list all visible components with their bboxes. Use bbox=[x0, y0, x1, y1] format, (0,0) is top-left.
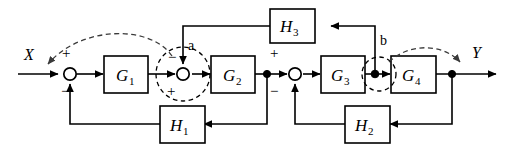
block-g4-subscript: 4 bbox=[415, 75, 421, 87]
block-g2-subscript: 2 bbox=[236, 75, 242, 87]
block-g2-label: G bbox=[223, 66, 235, 85]
takeoff-node-b-dot[interactable] bbox=[371, 70, 379, 78]
block-h3-label: H bbox=[279, 17, 294, 36]
block-g4-label: G bbox=[402, 66, 414, 85]
block-diagram-canvas: G 1 G 2 G 3 G 4 H 1 H 2 bbox=[0, 0, 508, 152]
block-g1-subscript: 1 bbox=[129, 75, 135, 87]
block-h1-label: H bbox=[169, 116, 184, 135]
block-h3[interactable]: H 3 bbox=[270, 9, 315, 43]
sum3-minus-sign: − bbox=[270, 83, 278, 99]
output-label-y: Y bbox=[472, 44, 483, 61]
block-h1-subscript: 1 bbox=[183, 125, 189, 137]
sum3-plus-sign: + bbox=[270, 45, 278, 61]
suma-minus-sign: − bbox=[168, 49, 176, 65]
block-diagram-svg: G 1 G 2 G 3 G 4 H 1 H 2 bbox=[0, 0, 508, 152]
input-label-x: X bbox=[23, 46, 35, 63]
sum1-plus-sign: + bbox=[62, 45, 70, 61]
block-h2[interactable]: H 2 bbox=[345, 106, 390, 143]
summing-junction-1[interactable]: + − bbox=[61, 45, 76, 99]
block-g3-subscript: 3 bbox=[344, 75, 350, 87]
block-g3-label: G bbox=[331, 66, 343, 85]
summing-junction-1-circle[interactable] bbox=[64, 68, 76, 80]
summing-junction-3[interactable]: + − bbox=[270, 45, 301, 99]
node-a-label: a bbox=[188, 38, 195, 53]
suma-plus-sign: + bbox=[167, 83, 175, 99]
summing-junction-a-circle[interactable] bbox=[177, 68, 189, 80]
block-h2-label: H bbox=[354, 116, 369, 135]
block-g2[interactable]: G 2 bbox=[211, 56, 255, 93]
sum1-minus-sign: − bbox=[61, 83, 69, 99]
block-g3[interactable]: G 3 bbox=[321, 56, 365, 93]
node-b-label: b bbox=[380, 33, 387, 48]
takeoff-node-g2-output[interactable] bbox=[263, 70, 270, 77]
block-h2-subscript: 2 bbox=[368, 125, 374, 137]
block-g1-label: G bbox=[116, 66, 128, 85]
takeoff-node-output[interactable] bbox=[448, 70, 455, 77]
block-g4[interactable]: G 4 bbox=[391, 56, 436, 93]
block-h1[interactable]: H 1 bbox=[160, 106, 205, 143]
block-h3-subscript: 3 bbox=[293, 26, 299, 38]
summing-junction-3-circle[interactable] bbox=[289, 68, 301, 80]
block-g1[interactable]: G 1 bbox=[104, 56, 148, 93]
